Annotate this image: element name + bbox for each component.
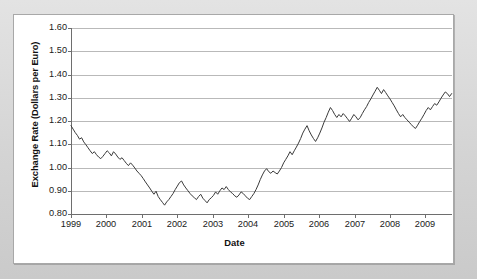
plot-region: 0.800.901.001.101.201.301.401.501.60 199… [71,28,452,214]
x-axis-line [71,214,452,215]
y-tick-label: 1.30 [23,93,67,102]
x-axis-title: Date [14,237,455,248]
y-tick-label: 1.40 [23,70,67,79]
y-tick-label: 0.90 [23,186,67,195]
y-tick-label: 1.50 [23,46,67,55]
figure-outer-frame: Exchange Rate (Dollars per Euro) 0.800.9… [0,0,477,279]
y-tick-label: 0.80 [23,209,67,218]
exchange-rate-line-series [71,28,452,214]
y-tick-label: 1.20 [23,116,67,125]
x-tick-label: 2009 [403,220,447,229]
y-tick-label: 1.60 [23,23,67,32]
y-tick-label: 1.10 [23,139,67,148]
chart-area: Exchange Rate (Dollars per Euro) 0.800.9… [14,15,455,265]
chart-card: Exchange Rate (Dollars per Euro) 0.800.9… [13,14,454,264]
y-tick-label: 1.00 [23,163,67,172]
